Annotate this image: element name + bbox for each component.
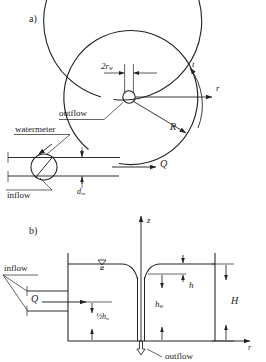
label-hw-sub: w (160, 303, 164, 309)
label-half-hw-sub: w (106, 316, 109, 321)
label-watermeter: watermeter (15, 125, 55, 134)
label-hw: hw (155, 300, 163, 310)
label-half-hw: ½hw (96, 313, 109, 322)
inflow-leader-b1 (3, 275, 27, 291)
label-2rw-sub: w (109, 65, 113, 71)
figure-canvas (0, 0, 266, 362)
inflow-leader-b2 (3, 275, 27, 310)
label-half-hw-main: ½h (96, 312, 106, 321)
label-outflow-a: outflow (59, 109, 87, 118)
outflow-hollow-arrow (137, 341, 145, 355)
water-surface-right (145, 264, 216, 279)
label-2rw-main: 2r (101, 61, 109, 71)
label-Q-b: Q (31, 294, 38, 304)
label-z-axis: z (147, 216, 151, 225)
label-inflow-b: inflow (4, 264, 28, 273)
label-r-axis-b: r (248, 344, 251, 352)
label-radius-R: R (170, 122, 176, 132)
label-radial-r-a: r (216, 84, 220, 93)
panel-b-tag: b) (29, 226, 37, 236)
tangential-axis-arc (190, 68, 202, 128)
watermeter-leader-line (46, 135, 70, 156)
radius-R-arrow (134, 102, 186, 134)
basin-circle (64, 31, 198, 165)
label-Q-a: Q (160, 159, 167, 169)
water-table-symbol (98, 260, 106, 270)
label-h: h (189, 281, 194, 290)
panel-a-plan-view (6, 0, 212, 190)
water-surface-left (68, 264, 138, 279)
label-2rw: 2rw (101, 62, 113, 72)
watermeter-diagonal (36, 157, 54, 178)
panel-a-tag: a) (29, 14, 37, 24)
label-outflow-b: outflow (165, 352, 193, 361)
label-H: H (231, 296, 238, 306)
label-din: din (77, 188, 85, 197)
label-inflow-a: inflow (7, 191, 31, 200)
outflow-leader-a (104, 103, 123, 120)
label-din-sub: in (81, 191, 85, 196)
label-tangential-t: t (192, 60, 195, 69)
outflow-leader-b (147, 349, 162, 357)
watermeter-leader-arrow (39, 144, 53, 155)
panel-b-cross-section (3, 216, 250, 357)
